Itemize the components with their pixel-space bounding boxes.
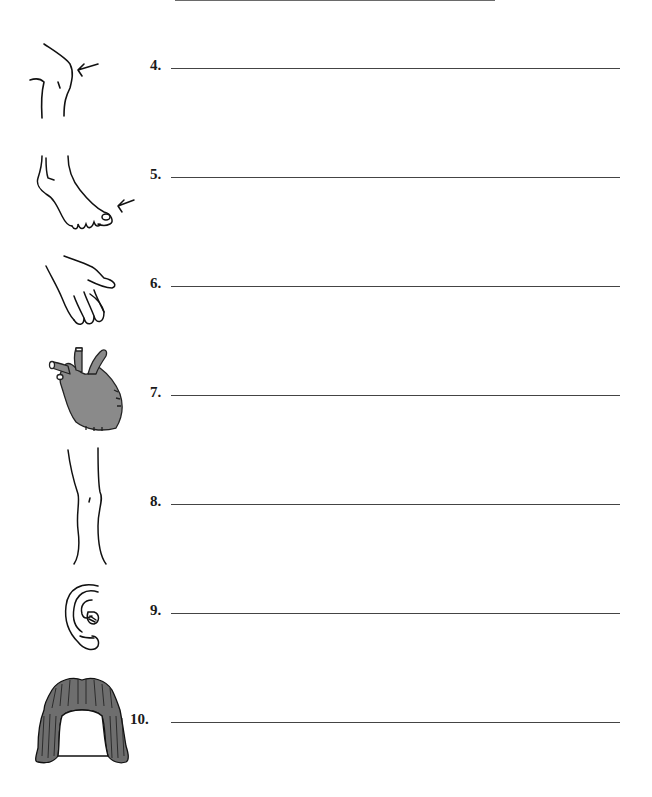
answer-line[interactable] [171, 613, 620, 614]
item-number: 8. [150, 493, 161, 510]
answer-line[interactable] [171, 68, 620, 69]
ear-icon [62, 582, 106, 654]
answer-line[interactable] [171, 395, 620, 396]
item-number: 4. [150, 57, 161, 74]
item-number: 7. [150, 384, 161, 401]
leg-icon [64, 446, 114, 568]
previous-answer-line [175, 0, 495, 1]
knee-icon [28, 40, 108, 122]
answer-line[interactable] [171, 286, 620, 287]
hand-icon [44, 254, 124, 330]
answer-line[interactable] [171, 722, 620, 723]
toe-icon [36, 154, 136, 244]
item-number: 9. [150, 602, 161, 619]
item-number: 6. [150, 275, 161, 292]
item-number: 10. [130, 711, 149, 728]
answer-line[interactable] [171, 177, 620, 178]
heart-icon [46, 344, 126, 434]
answer-line[interactable] [171, 504, 620, 505]
item-number: 5. [150, 166, 161, 183]
hair-icon [32, 676, 132, 768]
